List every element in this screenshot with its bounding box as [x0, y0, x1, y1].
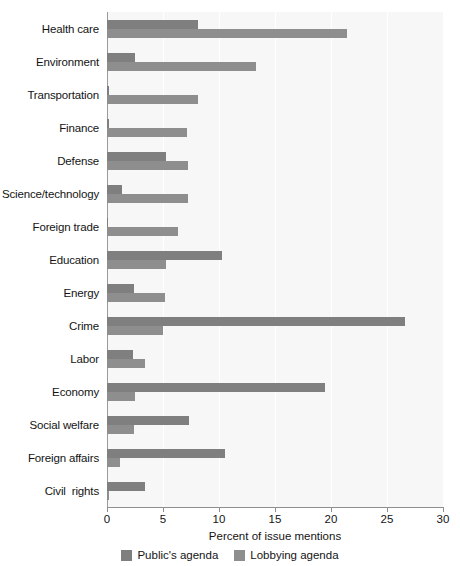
category-label: Foreign affairs [28, 452, 99, 464]
x-tick-mark [387, 507, 388, 512]
x-tick-mark [443, 507, 444, 512]
category-row: Foreign trade [0, 210, 460, 243]
chart-legend: Public's agenda Lobbying agenda [0, 549, 460, 561]
x-tick-label: 10 [213, 513, 226, 525]
category-row: Environment [0, 45, 460, 78]
x-tick-label: 20 [325, 513, 338, 525]
category-label: Defense [57, 155, 99, 167]
x-tick-mark [275, 507, 276, 512]
category-row: Labor [0, 342, 460, 375]
category-label: Labor [70, 353, 99, 365]
category-row: Energy [0, 276, 460, 309]
legend-item-lobbying: Lobbying agenda [234, 549, 338, 561]
legend-swatch-lobbying [234, 550, 245, 561]
category-row: Social welfare [0, 408, 460, 441]
bar-chart: Percent of issue mentions Public's agend… [0, 0, 460, 566]
category-label: Health care [42, 23, 99, 35]
category-label: Environment [36, 56, 99, 68]
category-label: Science/technology [2, 188, 99, 200]
x-tick-label: 25 [381, 513, 394, 525]
category-row: Health care [0, 12, 460, 45]
category-label: Civil rights [45, 485, 99, 497]
category-row: Crime [0, 309, 460, 342]
category-label: Education [49, 254, 99, 266]
category-row: Transportation [0, 78, 460, 111]
category-row: Education [0, 243, 460, 276]
category-row: Foreign affairs [0, 441, 460, 474]
category-label: Transportation [27, 89, 99, 101]
x-axis-title: Percent of issue mentions [107, 530, 443, 542]
x-tick-label: 5 [160, 513, 166, 525]
x-tick-label: 30 [437, 513, 450, 525]
legend-label-lobbying: Lobbying agenda [250, 549, 338, 561]
category-row: Finance [0, 111, 460, 144]
x-tick-label: 0 [104, 513, 110, 525]
x-tick-mark [163, 507, 164, 512]
x-tick-mark [107, 507, 108, 512]
legend-item-public: Public's agenda [121, 549, 218, 561]
legend-label-public: Public's agenda [137, 549, 218, 561]
category-row: Science/technology [0, 177, 460, 210]
x-tick-mark [219, 507, 220, 512]
legend-swatch-public [121, 550, 132, 561]
category-label: Foreign trade [33, 221, 99, 233]
category-label: Social welfare [30, 419, 100, 431]
category-row: Defense [0, 144, 460, 177]
category-label: Finance [59, 122, 99, 134]
category-label: Crime [69, 320, 99, 332]
x-tick-mark [331, 507, 332, 512]
x-tick-label: 15 [269, 513, 282, 525]
category-row: Civil rights [0, 474, 460, 507]
category-label: Energy [63, 287, 99, 299]
category-label: Economy [52, 386, 99, 398]
category-row: Economy [0, 375, 460, 408]
